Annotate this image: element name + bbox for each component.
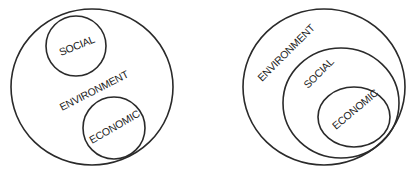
left-diagram: SOCIAL ENVIRONMENT ECONOMIC — [11, 9, 173, 165]
economic-label-right: ECONOMIC — [330, 86, 381, 132]
social-label-right: SOCIAL — [301, 55, 336, 90]
social-label-left: SOCIAL — [57, 33, 96, 58]
social-circle-right — [283, 48, 399, 158]
sustainability-diagrams: SOCIAL ENVIRONMENT ECONOMIC ENVIRONMENT … — [0, 0, 417, 174]
environment-circle-right — [243, 9, 405, 165]
economic-label-left: ECONOMIC — [87, 107, 142, 146]
right-diagram: ENVIRONMENT SOCIAL ECONOMIC — [243, 9, 405, 165]
